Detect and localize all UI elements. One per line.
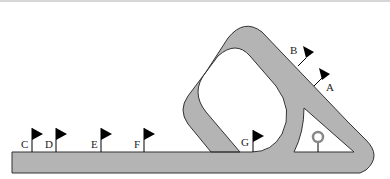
flag-C: C: [21, 128, 43, 152]
track: [12, 26, 374, 173]
flag-B: B: [290, 44, 314, 66]
flag-label-G: G: [241, 136, 249, 148]
flag-label-C: C: [21, 138, 28, 150]
flag-D: D: [45, 128, 67, 152]
flag-label-E: E: [91, 138, 98, 150]
flag-label-B: B: [290, 44, 297, 56]
flag-E: E: [91, 128, 112, 152]
ring-post-marker: [313, 132, 323, 152]
flag-F: F: [134, 128, 155, 152]
flag-G: G: [241, 130, 264, 152]
track-diagram: C D E F G B A: [0, 0, 390, 179]
flag-label-F: F: [134, 138, 140, 150]
flag-label-D: D: [45, 138, 53, 150]
flag-label-A: A: [326, 81, 334, 93]
